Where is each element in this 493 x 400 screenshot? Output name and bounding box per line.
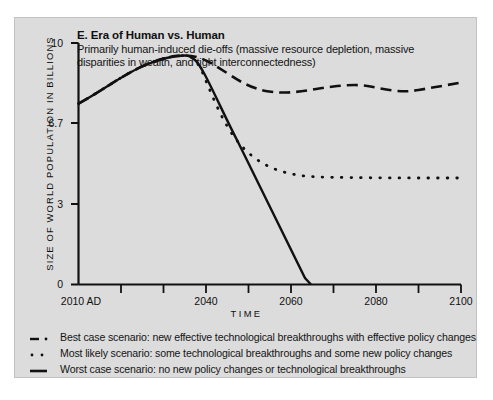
x-ticks	[121, 285, 461, 294]
xtick-label-2060: 2060	[256, 295, 326, 307]
xtick-label-2080: 2080	[341, 295, 411, 307]
figure-panel: 10 6.7 3 0 2010 AD 2040 2060 2080 2100 S…	[14, 17, 477, 378]
chart-legend: Best case scenario: new effective techno…	[29, 329, 469, 377]
chart-svg	[15, 18, 478, 379]
title-block: E. Era of Human vs. Human Primarily huma…	[77, 29, 463, 69]
y-axis-title: SIZE OF WORLD POPULATION IN BILLIONS	[44, 34, 55, 274]
legend-label-best-case: Best case scenario: new effective techno…	[60, 331, 476, 343]
xtick-label-2100: 2100	[426, 295, 493, 307]
xtick-label-2010: 2010 AD	[46, 295, 116, 307]
y-ticks	[71, 43, 79, 285]
legend-swatch-dash-dot-icon	[29, 331, 55, 343]
ytick-label-0: 0	[29, 278, 63, 290]
legend-label-most-likely: Most likely scenario: some technological…	[60, 347, 452, 359]
legend-item-worst-case: Worst case scenario: no new policy chang…	[29, 361, 469, 377]
chart-subtitle: Primarily human-induced die-offs (massiv…	[77, 43, 463, 69]
x-axis-title: TIME	[15, 308, 478, 319]
legend-swatch-solid-icon	[29, 363, 55, 375]
series-most-likely	[79, 56, 462, 179]
legend-item-most-likely: Most likely scenario: some technological…	[29, 345, 469, 361]
plot-area: 10 6.7 3 0 2010 AD 2040 2060 2080 2100 S…	[15, 18, 478, 379]
chart-title: E. Era of Human vs. Human	[77, 29, 463, 42]
legend-swatch-dotted-icon	[29, 347, 55, 359]
xtick-label-2040: 2040	[171, 295, 241, 307]
legend-item-best-case: Best case scenario: new effective techno…	[29, 329, 469, 345]
legend-label-worst-case: Worst case scenario: no new policy chang…	[60, 363, 406, 375]
